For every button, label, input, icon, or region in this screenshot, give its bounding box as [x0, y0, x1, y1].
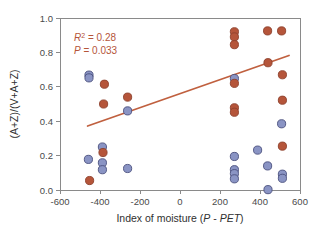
data-point	[99, 148, 107, 156]
p-value-annotation: P = 0.033	[74, 45, 118, 56]
y-tick-label: 0.2	[40, 150, 53, 161]
data-point	[124, 107, 132, 115]
y-tick-label: 0.6	[40, 81, 53, 92]
data-point	[278, 71, 286, 79]
x-axis-title: Index of moisture (P - PET)	[116, 212, 243, 224]
r-squared-annotation: R2 = 0.28	[74, 32, 116, 43]
data-point	[230, 41, 238, 49]
data-point	[100, 100, 108, 108]
data-point	[264, 162, 272, 170]
y-tick-label: 0.4	[40, 116, 53, 127]
data-point	[100, 80, 108, 88]
y-axis-ticks	[56, 18, 60, 190]
data-point	[230, 79, 238, 87]
data-point	[278, 174, 286, 182]
data-point	[230, 152, 238, 160]
x-tick-label: 600	[292, 196, 308, 207]
data-point	[264, 59, 272, 67]
data-point	[278, 27, 286, 35]
data-point	[84, 155, 92, 163]
y-tick-label: 0.0	[40, 185, 53, 196]
data-point	[264, 186, 272, 194]
data-point	[278, 142, 286, 150]
x-tick-label: 200	[212, 196, 228, 207]
data-point	[86, 176, 94, 184]
scatter-plot-figure: 0.00.20.40.60.81.0 -600-400-200020040060…	[0, 0, 316, 229]
plot-canvas: 0.00.20.40.60.81.0 -600-400-200020040060…	[0, 0, 316, 229]
data-point	[278, 120, 286, 128]
regression-line	[88, 55, 289, 126]
data-point	[278, 96, 286, 104]
y-tick-label: 0.8	[40, 47, 53, 58]
data-point	[124, 93, 132, 101]
x-tick-label: -400	[90, 196, 109, 207]
y-axis-title: (A+Z)/(V+A+Z)	[8, 69, 20, 138]
x-axis-tick-labels: -600-400-2000200400600	[50, 196, 307, 207]
data-point	[230, 33, 238, 41]
y-tick-label: 1.0	[40, 13, 53, 24]
x-tick-label: -200	[130, 196, 149, 207]
y-axis-tick-labels: 0.00.20.40.60.81.0	[40, 13, 53, 196]
data-point	[230, 175, 238, 183]
data-point	[254, 146, 262, 154]
x-tick-label: 400	[252, 196, 268, 207]
data-point	[85, 74, 93, 82]
x-tick-label: -600	[50, 196, 69, 207]
x-tick-label: 0	[177, 196, 182, 207]
data-point	[264, 27, 272, 35]
data-point	[98, 166, 106, 174]
data-point	[230, 108, 238, 116]
data-point	[124, 164, 132, 172]
